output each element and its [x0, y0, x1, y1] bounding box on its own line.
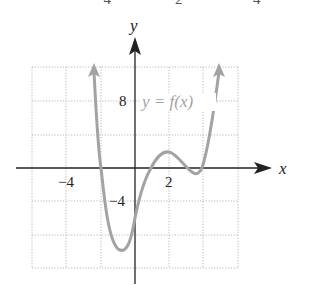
- x-axis-label: x: [278, 159, 287, 178]
- x-tick-label-2: 2: [165, 174, 173, 190]
- y-axis-label: y: [128, 16, 138, 35]
- x-tick-label-neg4: −4: [58, 174, 74, 190]
- axes: [16, 46, 262, 284]
- y-tick-label-8: 8: [119, 93, 127, 109]
- curve-label: y = f(x): [140, 92, 193, 111]
- y-tick-label-neg4: −4: [109, 193, 125, 209]
- function-graph: x y −4 2 8 −4 y = f(x): [0, 0, 309, 285]
